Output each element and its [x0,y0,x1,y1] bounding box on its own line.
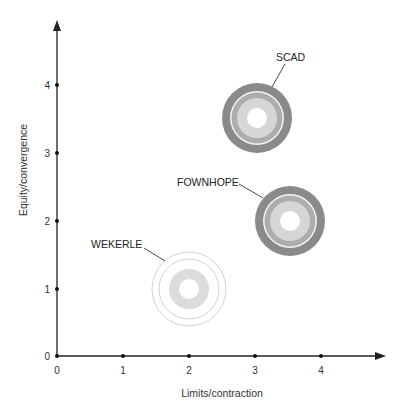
y-tick-label: 1 [44,284,50,295]
y-tick-label: 2 [44,216,50,227]
x-tick-labels: 0 1 2 3 4 [54,365,324,376]
point-scad: SCAD [222,51,306,153]
scad-label: SCAD [276,51,306,63]
x-tick-label: 1 [120,365,126,376]
x-tick-label: 4 [318,365,324,376]
y-tick-label: 0 [44,351,50,362]
x-tick-label: 3 [252,365,258,376]
axes [53,20,386,360]
fownhope-leader-line [239,184,263,198]
y-tick-labels: 0 1 2 3 4 [44,80,50,362]
x-axis-title: Limits/contraction [181,387,263,399]
y-tick-label: 3 [44,148,50,159]
point-wekerle: WEKERLE [91,238,226,326]
x-tick-label: 2 [186,365,192,376]
y-axis-title: Equity/convergence [17,124,29,216]
wekerle-leader-line [144,248,165,261]
y-axis-arrow-icon [53,20,61,31]
y-tick-label: 4 [44,80,50,91]
x-tick-label: 0 [54,365,60,376]
fownhope-label: FOWNHOPE [177,176,239,188]
wekerle-label: WEKERLE [91,238,142,250]
scad-leader-line [272,64,285,87]
diagram: 0 1 2 3 4 0 1 2 3 4 Limits/contraction E… [0,0,404,410]
x-axis-arrow-icon [375,352,386,360]
point-fownhope: FOWNHOPE [177,176,325,256]
